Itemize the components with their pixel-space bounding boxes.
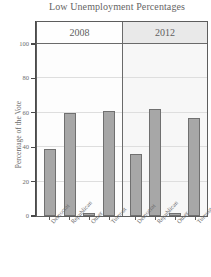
plot-area-2008 (37, 44, 122, 216)
bar-chart: Low Unemployment Percentages Percentage … (0, 0, 211, 277)
y-tick-label-0: 0 (11, 212, 29, 219)
panel-2008: 2008 (37, 22, 122, 216)
y-tick-label-wrap-80: 80 (9, 74, 29, 82)
x-label-slot: Democrat (43, 217, 55, 277)
y-tick-label-60: 60 (11, 109, 29, 116)
y-tick-label-wrap-20: 20 (9, 178, 29, 186)
x-axis-label-group-2012: DemocratRepublicanOtherTurnout (122, 217, 208, 277)
bar-2012-republican (149, 109, 161, 216)
plot-area-2012 (123, 44, 207, 216)
y-tick-label-100: 100 (11, 40, 29, 47)
x-label-slot: Turnout (103, 217, 115, 277)
y-tick-label-wrap-100: 100 (9, 40, 29, 48)
bar-2008-turnout (103, 111, 115, 216)
y-tick-label-40: 40 (11, 143, 29, 150)
chart-title: Low Unemployment Percentages (26, 1, 208, 12)
x-label-slot: Republican (63, 217, 75, 277)
y-tick-label-20: 20 (11, 178, 29, 185)
x-axis-label-group-2008: DemocratRepublicanOtherTurnout (36, 217, 122, 277)
x-label-slot: Republican (149, 217, 161, 277)
y-tick-label-wrap-40: 40 (9, 143, 29, 151)
y-tick-label-wrap-60: 60 (9, 109, 29, 117)
y-tick-label-80: 80 (11, 74, 29, 81)
bar-2008-republican (64, 113, 76, 216)
x-axis-labels: DemocratRepublicanOtherTurnout DemocratR… (36, 217, 208, 277)
x-label-slot: Other (83, 217, 95, 277)
x-label-slot: Democrat (129, 217, 141, 277)
x-label-slot: Turnout (189, 217, 201, 277)
x-label-slot: Other (169, 217, 181, 277)
y-tick-label-wrap-0: 0 (9, 212, 29, 220)
panel-container: 2008 2012 (36, 21, 208, 217)
panel-2012: 2012 (122, 22, 207, 216)
bar-group-2012 (123, 44, 207, 216)
panel-strip-label-2012: 2012 (123, 22, 207, 44)
bar-2008-democrat (44, 149, 56, 216)
bar-2012-turnout (188, 118, 200, 216)
bar-2012-democrat (130, 154, 142, 216)
panel-strip-label-2008: 2008 (37, 22, 122, 44)
bar-group-2008 (37, 44, 122, 216)
